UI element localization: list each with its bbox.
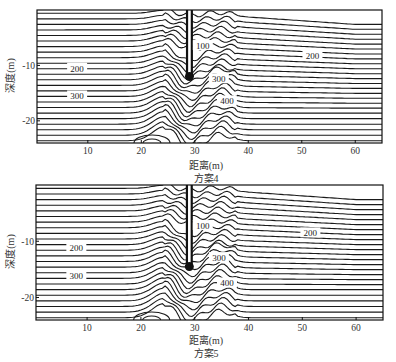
pile-core (188, 185, 191, 264)
contour-plot-scheme-5: 200300100300400200102030405060-10-20 (0, 0, 396, 362)
contour-label: 200 (70, 243, 84, 253)
figure-caption: 方案5 (8, 345, 396, 360)
y-tick-label: -20 (21, 293, 34, 303)
contour-panel-scheme-5: 200300100300400200102030405060-10-20 深度(… (0, 0, 396, 362)
pile-tip (185, 262, 194, 271)
contour-line (33, 268, 388, 289)
y-axis-label: 深度(m) (2, 234, 17, 268)
contour-line (33, 293, 388, 317)
contour-line (33, 188, 388, 205)
contour-line (33, 299, 388, 323)
contour-label: 300 (212, 253, 226, 263)
contour-label: 200 (304, 228, 318, 238)
contour-lines: 200300100300400200 (33, 183, 388, 328)
contour-label: 300 (70, 271, 84, 281)
contour-label: 400 (220, 278, 234, 288)
contour-label: 100 (196, 221, 210, 231)
y-tick-label: -10 (21, 237, 34, 247)
